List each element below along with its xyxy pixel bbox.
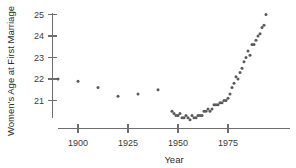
y-tick-label: 21 [34, 96, 44, 106]
data-point [77, 80, 80, 83]
data-point [211, 108, 214, 111]
data-point [245, 56, 248, 59]
data-point [247, 50, 250, 53]
x-tick-label: 1925 [118, 138, 138, 148]
x-tick-label: 1900 [68, 138, 88, 148]
data-point [253, 43, 256, 46]
x-axis-ticks: 1900192519501975 [68, 124, 238, 148]
y-tick-label: 22 [34, 74, 44, 84]
data-point [189, 118, 192, 121]
data-point [255, 39, 258, 42]
data-point-series [57, 13, 268, 121]
x-axis-title: Year [164, 154, 183, 165]
y-tick-label: 24 [34, 31, 44, 41]
data-point [249, 54, 252, 57]
data-point [237, 78, 240, 81]
data-point [243, 60, 246, 63]
scatter-chart: 2122232425 1900192519501975 Women's Age … [0, 0, 296, 168]
data-point [227, 97, 230, 100]
data-point [231, 86, 234, 89]
data-point [137, 93, 140, 96]
data-point [241, 67, 244, 70]
data-point [239, 71, 242, 74]
data-point [265, 13, 268, 16]
y-tick-label: 23 [34, 53, 44, 63]
y-axis-title: Women's Age at First Marriage [5, 6, 16, 136]
x-tick-label: 1950 [168, 138, 188, 148]
data-point [97, 86, 100, 89]
data-point [263, 24, 266, 27]
data-point [233, 82, 236, 85]
data-point [259, 32, 262, 35]
data-point [117, 95, 120, 98]
chart-canvas: 2122232425 1900192519501975 Women's Age … [0, 0, 296, 168]
y-axis-ticks: 2122232425 [34, 10, 57, 106]
data-point [201, 114, 204, 117]
data-point [229, 93, 232, 96]
data-point [57, 78, 60, 81]
x-tick-label: 1975 [218, 138, 238, 148]
data-point [179, 112, 182, 115]
data-point [157, 88, 160, 91]
y-tick-label: 25 [34, 10, 44, 20]
